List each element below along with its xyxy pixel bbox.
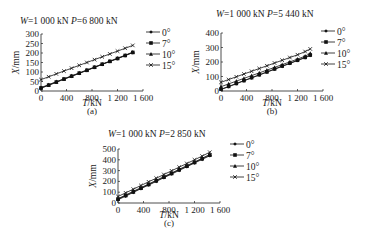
- y-tick-label: 50: [30, 77, 40, 87]
- chart-b: W=1 000 kN P=5 440 kN0100200300400040080…: [191, 9, 351, 116]
- diamond-marker: [324, 29, 328, 33]
- series-15deg: [116, 150, 211, 198]
- x-tick-label: 0: [116, 205, 121, 215]
- legend-label: 15°: [337, 60, 351, 70]
- x-tick-label: 400: [137, 205, 151, 215]
- legend-label: 0°: [162, 28, 171, 38]
- series-15deg: [219, 47, 312, 84]
- y-axis-label: X/mm: [88, 164, 98, 189]
- chart-c: W=1 000 kN P=2 850 kN0100200300400500040…: [88, 129, 260, 228]
- series-15deg: [39, 44, 134, 82]
- legend-label: 10°: [162, 50, 176, 60]
- y-axis-label: X/mm: [191, 50, 201, 75]
- x-tick-label: 1 600: [210, 205, 231, 215]
- y-tick-label: 400: [206, 28, 220, 38]
- y-tick-label: 300: [26, 29, 40, 39]
- x-tick-label: 400: [60, 93, 74, 103]
- chart-caption: (b): [267, 106, 278, 116]
- y-tick-label: 100: [103, 187, 117, 197]
- legend-label: 0°: [246, 140, 255, 150]
- series-10deg: [219, 51, 312, 88]
- legend-label: 7°: [162, 39, 171, 49]
- y-tick-label: 150: [26, 58, 40, 68]
- y-tick-label: 500: [103, 144, 117, 154]
- y-tick-label: 200: [26, 48, 40, 58]
- y-tick-label: 100: [206, 72, 220, 82]
- x-tick-label: 1 600: [133, 93, 154, 103]
- x-tick-label: 1 600: [313, 93, 334, 103]
- y-tick-label: 250: [26, 39, 40, 49]
- legend-label: 15°: [246, 173, 260, 183]
- x-tick-label: 1 200: [287, 93, 308, 103]
- y-tick-label: 300: [103, 166, 117, 176]
- x-tick-label: 400: [240, 93, 254, 103]
- y-tick-label: 200: [103, 176, 117, 186]
- chart-a: W=1 000 kN P=6 800 kN0501001502002503000…: [11, 16, 176, 116]
- figure-canvas: W=1 000 kN P=6 800 kN0501001502002503000…: [0, 0, 367, 251]
- diamond-marker: [149, 30, 153, 34]
- legend-label: 10°: [246, 162, 260, 172]
- chart-title: W=1 000 kN P=6 800 kN: [20, 16, 118, 26]
- legend-label: 0°: [337, 27, 346, 37]
- y-tick-label: 200: [206, 57, 220, 67]
- legend: 0°7°10°15°: [230, 140, 260, 183]
- x-tick-label: 1 200: [184, 205, 205, 215]
- x-tick-label: 0: [219, 93, 224, 103]
- legend-label: 10°: [337, 49, 351, 59]
- chart-title: W=1 000 kN P=5 440 kN: [216, 9, 314, 19]
- diamond-marker: [233, 142, 237, 146]
- legend: 0°7°10°15°: [146, 28, 176, 71]
- y-axis-label: X/mm: [11, 50, 21, 75]
- y-tick-label: 100: [26, 67, 40, 77]
- chart-caption: (c): [164, 218, 174, 228]
- x-tick-label: 1 200: [107, 93, 128, 103]
- square-marker: [149, 41, 153, 45]
- square-marker: [233, 153, 237, 157]
- y-tick-label: 400: [103, 155, 117, 165]
- square-marker: [324, 40, 328, 44]
- legend: 0°7°10°15°: [321, 27, 351, 70]
- triangle-marker: [308, 51, 312, 55]
- chart-caption: (a): [87, 106, 97, 116]
- y-tick-label: 300: [206, 43, 220, 53]
- legend-label: 7°: [337, 38, 346, 48]
- legend-label: 15°: [162, 61, 176, 71]
- x-tick-label: 0: [39, 93, 44, 103]
- chart-title: W=1 000 kN P=2 850 kN: [108, 129, 206, 139]
- legend-label: 7°: [246, 151, 255, 161]
